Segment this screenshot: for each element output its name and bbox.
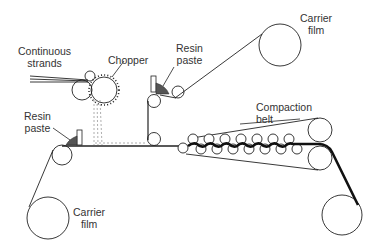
- label-carrier-film-top: Carrier film: [300, 12, 332, 36]
- label-line: Carrier: [73, 206, 105, 218]
- guide-roller-lower: [148, 133, 161, 146]
- resin-paste-bottom: [66, 136, 77, 145]
- label-resin-paste-bottom: Resin paste: [24, 110, 51, 134]
- resin-paste-top: [156, 83, 169, 94]
- label-resin-paste-top: Resin paste: [176, 42, 203, 66]
- carrier-film-roll-bottom: [27, 197, 69, 239]
- chopper-wheel: [91, 77, 117, 103]
- label-line: Resin: [24, 110, 51, 122]
- label-line: Compaction: [256, 101, 312, 113]
- label-continuous-strands: Continuous strands: [18, 45, 71, 69]
- label-line: paste: [24, 122, 51, 134]
- label-line: paste: [176, 54, 203, 66]
- label-compaction-belt: Compaction belt: [256, 101, 312, 125]
- label-line: film: [73, 218, 105, 230]
- label-chopper: Chopper: [108, 54, 148, 66]
- label-line: belt: [256, 113, 312, 125]
- guide-roller-upper: [148, 95, 161, 108]
- belt-roll-bottom: [308, 146, 332, 170]
- guide-roller-left: [52, 145, 72, 165]
- label-line: film: [300, 24, 332, 36]
- label-line: strands: [18, 57, 71, 69]
- feed-roller-large: [72, 80, 92, 100]
- resin-box-top: [151, 76, 156, 92]
- process-diagram: [0, 0, 378, 250]
- resin-box-bottom: [77, 130, 82, 145]
- carrier-film-roll-top: [259, 24, 301, 66]
- label-line: Resin: [176, 42, 203, 54]
- label-line: Carrier: [300, 12, 332, 24]
- label-carrier-film-bottom: Carrier film: [73, 206, 105, 230]
- label-line: Continuous: [18, 45, 71, 57]
